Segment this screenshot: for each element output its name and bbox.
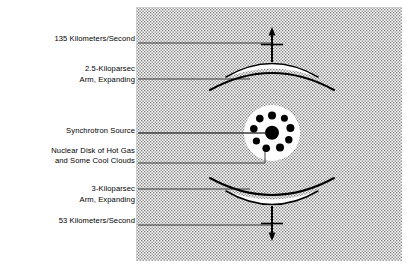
cloud-dot — [256, 115, 264, 123]
cloud-dot — [285, 136, 292, 143]
cloud-dot — [286, 124, 294, 132]
label-line: Arm, Expanding — [80, 75, 135, 86]
cloud-dot — [281, 115, 288, 122]
label-line: 2.5-Kiloparsec — [80, 64, 135, 75]
label-arm-3-kiloparsec: 3-Kiloparsec Arm, Expanding — [80, 184, 135, 205]
label-velocity-bottom: 53 Kilometers/Second — [59, 216, 135, 227]
cloud-dot — [268, 112, 276, 120]
galactic-center-diagram: 135 Kilometers/Second 2.5-Kiloparsec Arm… — [0, 0, 418, 269]
label-velocity-top: 135 Kilometers/Second — [54, 34, 135, 45]
label-line: Nuclear Disk of Hot Gas — [51, 146, 135, 157]
label-synchrotron-source: Synchrotron Source — [66, 126, 135, 137]
label-line: 135 Kilometers/Second — [54, 34, 135, 45]
cloud-dot — [276, 144, 284, 152]
label-line: Arm, Expanding — [80, 195, 135, 206]
label-line: Synchrotron Source — [66, 126, 135, 137]
central-source-dot — [265, 126, 279, 140]
label-arm-2-5-kiloparsec: 2.5-Kiloparsec Arm, Expanding — [80, 64, 135, 85]
label-line: and Some Cool Clouds — [51, 156, 135, 167]
cloud-dot — [250, 125, 258, 133]
label-line: 3-Kiloparsec — [80, 184, 135, 195]
label-line: 53 Kilometers/Second — [59, 216, 135, 227]
label-nuclear-disk: Nuclear Disk of Hot Gas and Some Cool Cl… — [51, 146, 135, 167]
cloud-dot — [253, 137, 260, 144]
cloud-dot — [262, 144, 270, 152]
